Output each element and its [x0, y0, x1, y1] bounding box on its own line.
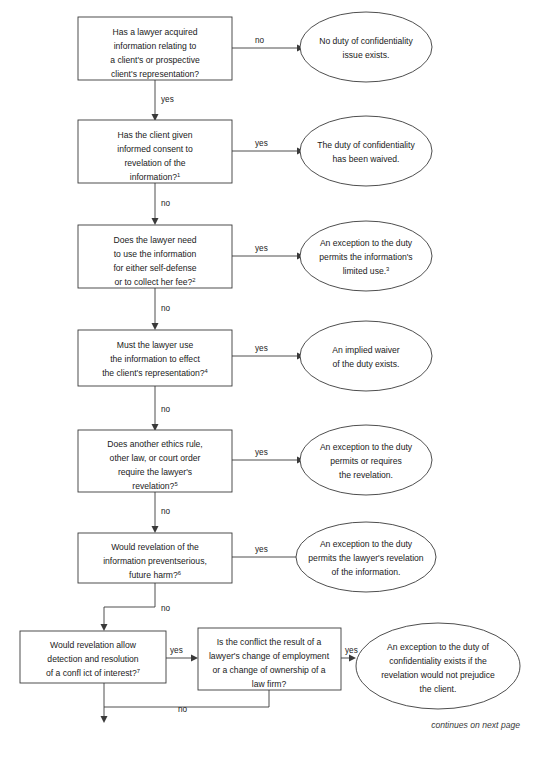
outcome-o6-line-0: An exception to the duty [320, 539, 413, 549]
decision-d2-superscript: 1 [177, 172, 180, 178]
decision-d1-line-1: information relating to [114, 41, 197, 51]
outcome-o6-line-1: permits the lawyer's revelation [308, 553, 424, 563]
decision-d3-line-0: Does the lawyer need [113, 235, 196, 245]
decision-d6-line-0: Would revelation of the [111, 542, 199, 552]
decision-d2-line-3: information?1 [130, 172, 181, 183]
arrow-d8-yes [349, 655, 356, 662]
decision-node-d8[interactable]: Is the conflict the result of a lawyer's… [198, 628, 341, 690]
decision-d4-line-2-text: the client's representation? [102, 368, 205, 378]
edge-label-d5-no: no [161, 507, 171, 516]
edge-label-d7-no: no [178, 705, 188, 714]
edge-label-d2-yes: yes [255, 139, 268, 148]
edge-label-d3-yes: yes [255, 244, 268, 253]
decision-node-d4[interactable]: Must the lawyer use the information to e… [78, 330, 232, 386]
flowchart-diagram: Has a lawyer acquired information relati… [0, 0, 540, 757]
decision-d5-line-3: revelation?5 [132, 481, 177, 492]
outcome-o1-line-1: issue exists. [343, 50, 390, 60]
outcome-node-o6[interactable]: An exception to the duty permits the law… [296, 522, 436, 592]
edge-label-d4-no: no [161, 405, 171, 414]
outcome-o7-line-1: confidentiality exists if the [389, 656, 487, 666]
decision-d3-line-1: to use the information [114, 249, 197, 259]
decision-d6-superscript: 6 [178, 570, 181, 576]
decision-d4-line-0: Must the lawyer use [117, 340, 194, 350]
outcome-node-o4[interactable]: An implied waiver of the duty exists. [300, 321, 432, 391]
outcome-o5-line-2: the revelation. [339, 470, 393, 480]
decision-d3-line-3-text: or to collect her fee? [114, 277, 192, 287]
outcome-o5-line-1: permits or requires [330, 456, 402, 466]
decision-d2-line-3-text: information? [130, 172, 178, 182]
decision-d7-line-1: detection and resolution [47, 654, 138, 664]
outcome-node-o2[interactable]: The duty of confidentiality has been wai… [300, 116, 432, 186]
decision-d5-line-1: other law, or court order [110, 453, 201, 463]
outcome-node-o3[interactable]: An exception to the duty permits the inf… [300, 221, 432, 291]
outcome-ellipse-o1[interactable] [300, 12, 432, 82]
decision-d2-line-2: revelation of the [124, 158, 185, 168]
decision-nodes-layer: Has a lawyer acquired information relati… [20, 17, 341, 690]
decision-d7-line-0: Would revelation allow [50, 640, 137, 650]
decision-d6-line-2-text: future harm? [129, 570, 178, 580]
decision-d6-line-2: future harm?6 [129, 570, 181, 581]
edge-label-d5-yes: yes [255, 448, 268, 457]
decision-node-d2[interactable]: Has the client given informed consent to… [78, 120, 232, 183]
outcome-node-o1[interactable]: No duty of confidentiality issue exists. [300, 12, 432, 82]
edge-label-d3-no: no [161, 304, 171, 313]
edge-label-d8-yes: yes [345, 646, 358, 655]
decision-d7-line-2: of a confl ict of interest?7 [46, 668, 140, 679]
decision-d7-line-2-text: of a confl ict of interest? [46, 668, 137, 678]
decision-d7-superscript: 7 [137, 668, 140, 674]
footer-continues-note: continues on next page [431, 720, 520, 730]
decision-d3-line-3: or to collect her fee?2 [114, 277, 195, 288]
decision-d5-line-3-text: revelation? [132, 481, 174, 491]
decision-d2-line-0: Has the client given [118, 130, 193, 140]
decision-d1-line-2: a client's or prospective [110, 55, 200, 65]
outcome-o3-line-2: limited use.3 [343, 266, 390, 277]
edge-label-d2-no: no [161, 199, 171, 208]
outcome-node-o7[interactable]: An exception to the duty of confidential… [356, 623, 520, 709]
outcome-node-o5[interactable]: An exception to the duty permits or requ… [300, 425, 432, 495]
outcome-ellipse-o2[interactable] [300, 116, 432, 186]
decision-node-d3[interactable]: Does the lawyer need to use the informat… [78, 225, 232, 288]
decision-d5-line-0: Does another ethics rule, [107, 439, 203, 449]
decision-d8-line-3: law firm? [252, 679, 287, 689]
decision-d2-line-1: informed consent to [117, 144, 193, 154]
decision-d6-line-1: information preventserious, [103, 556, 207, 566]
edge-label-d4-yes: yes [255, 344, 268, 353]
decision-d8-line-1: lawyer's change of employment [209, 651, 330, 661]
edge-label-d1-no: no [255, 36, 265, 45]
edge-label-d6-yes: yes [255, 545, 268, 554]
outcome-o7-line-2: revelation would not prejudice [381, 670, 495, 680]
outcome-o3-line-0: An exception to the duty [320, 238, 413, 248]
arrow-d5-no [152, 526, 159, 533]
decision-d1-line-3: client's representation? [111, 69, 199, 79]
outcome-o1-line-0: No duty of confidentiality [319, 36, 413, 46]
edge-label-d7-yes: yes [170, 646, 183, 655]
decision-d5-line-2: require the lawyer's [118, 467, 192, 477]
decision-node-d1[interactable]: Has a lawyer acquired information relati… [78, 17, 232, 80]
decision-d8-line-2: or a change of ownership of a [212, 665, 325, 675]
connector-d6-no [104, 583, 155, 624]
arrow-d8-no [101, 716, 108, 723]
decision-d3-line-2: for either self-defense [113, 263, 196, 273]
outcome-o3-line-2-text: limited use. [343, 266, 386, 276]
decision-d3-superscript: 2 [192, 277, 195, 283]
outcome-o2-line-1: has been waived. [333, 154, 400, 164]
decision-node-d7[interactable]: Would revelation allow detection and res… [20, 631, 166, 683]
outcome-o5-line-0: An exception to the duty [320, 442, 413, 452]
outcome-ellipse-o7[interactable] [356, 623, 520, 709]
outcome-ellipse-o4[interactable] [300, 321, 432, 391]
outcome-o4-line-0: An implied waiver [332, 345, 399, 355]
decision-d1-line-0: Has a lawyer acquired [112, 27, 197, 37]
outcome-o3-line-1: permits the information's [319, 252, 412, 262]
outcome-nodes-layer: No duty of confidentiality issue exists.… [296, 12, 520, 709]
decision-d5-superscript: 5 [174, 481, 177, 487]
decision-node-d6[interactable]: Would revelation of the information prev… [78, 533, 232, 583]
outcome-o4-line-1: of the duty exists. [333, 359, 400, 369]
arrow-d3-no [152, 323, 159, 330]
decision-d4-line-1: the information to effect [110, 354, 200, 364]
outcome-o6-line-2: of the information. [332, 567, 401, 577]
decision-node-d5[interactable]: Does another ethics rule, other law, or … [78, 430, 232, 492]
arrow-d7-yes [191, 655, 198, 662]
edge-label-d6-no: no [161, 604, 171, 613]
outcome-o7-line-0: An exception to the duty of [387, 642, 489, 652]
outcome-o3-superscript: 3 [386, 266, 389, 272]
